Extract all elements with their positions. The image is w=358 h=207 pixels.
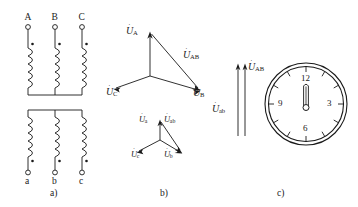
- hv-terminal-circle-C: [80, 25, 85, 30]
- hv-winding-group: [26, 25, 88, 95]
- caption-c: c): [277, 189, 284, 199]
- hv-polarity-dot-B: [58, 43, 61, 46]
- hv-terminal-label-B: B: [52, 13, 58, 23]
- lv-polarity-dot-a: [31, 160, 34, 163]
- hv-terminal-circle-B: [53, 25, 58, 30]
- phasor-label-Uc: ·Uc: [131, 150, 140, 159]
- lv-coil-a: [28, 117, 33, 157]
- lv-phasor-diagram: [137, 120, 183, 155]
- clock-number-12: 12: [301, 74, 310, 83]
- caption-a: a): [50, 189, 57, 199]
- lv-terminal-circle-b: [53, 170, 58, 175]
- phasor-line-UAB: [152, 34, 199, 88]
- arrow-label-UAB: ·UAB: [248, 62, 264, 72]
- phasor-line-Uc: [139, 140, 160, 151]
- hv-terminal-label-A: A: [25, 13, 32, 23]
- clock-number-6: 6: [303, 124, 308, 133]
- hv-terminal-circle-A: [26, 25, 31, 30]
- lv-coil-c: [82, 117, 87, 157]
- phasor-label-UA: ·UA: [126, 26, 138, 36]
- hv-polarity-dot-A: [31, 43, 34, 46]
- lv-terminal-label-b: b: [52, 177, 57, 187]
- phasor-label-UAB: ·UAB: [183, 50, 199, 60]
- hv-phasor-diagram: [113, 32, 200, 95]
- hv-terminal-label-C: C: [79, 13, 85, 23]
- phasor-label-Uab: ·Uab: [164, 115, 176, 124]
- hv-coil-C: [82, 48, 87, 88]
- phasor-label-Ub: ·Ub: [164, 150, 173, 159]
- phasor-label-Ua: ·Ua: [139, 115, 148, 124]
- lv-polarity-dot-c: [85, 160, 88, 163]
- phasor-label-UB: ·UB: [193, 88, 205, 98]
- hv-coil-B: [55, 48, 60, 88]
- clock-number-3: 3: [327, 99, 332, 108]
- hv-coil-A: [28, 48, 33, 88]
- lv-terminal-label-c: c: [79, 177, 83, 187]
- phasor-label-UC: ·UC: [106, 87, 118, 97]
- caption-b: b): [160, 189, 168, 199]
- clock-phasor-arrows: [236, 64, 248, 137]
- lv-winding-group: [26, 110, 88, 175]
- lv-coil-b: [55, 117, 60, 157]
- phasor-line-UC: [116, 76, 150, 88]
- phasor-line-UB: [150, 76, 198, 90]
- lv-terminal-label-a: a: [25, 177, 29, 187]
- arrow-label-Uab: ·Uab: [212, 104, 225, 114]
- clock-hub: [303, 105, 309, 111]
- clock-number-9: 9: [278, 99, 283, 108]
- lv-terminal-circle-a: [26, 170, 31, 175]
- hv-polarity-dot-C: [85, 43, 88, 46]
- lv-terminal-circle-c: [80, 170, 85, 175]
- lv-polarity-dot-b: [58, 160, 61, 163]
